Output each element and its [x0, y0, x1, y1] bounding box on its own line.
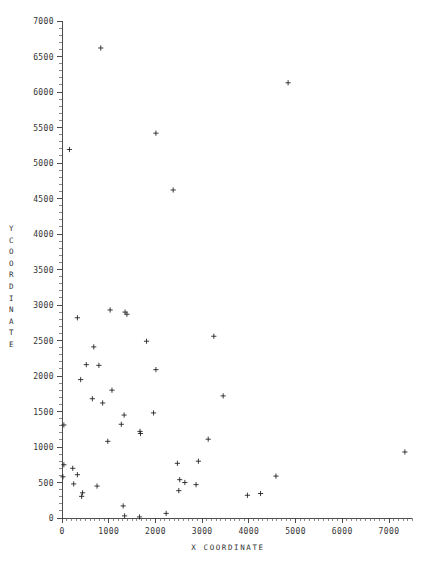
data-point-marker — [402, 449, 407, 454]
data-point-marker — [100, 400, 105, 405]
data-point-marker — [176, 488, 181, 493]
x-tick-label: 0 — [59, 527, 64, 536]
data-point-marker — [91, 344, 96, 349]
data-point-marker — [177, 477, 182, 482]
y-tick-label: 6500 — [33, 53, 54, 62]
x-tick-label: 7000 — [379, 527, 400, 536]
data-point-marker — [206, 437, 211, 442]
data-point-marker — [70, 466, 75, 471]
data-point-marker — [75, 472, 80, 477]
data-point-marker — [90, 396, 95, 401]
data-point-marker — [273, 474, 278, 479]
data-point-marker — [193, 482, 198, 487]
y-tick-label: 1500 — [33, 408, 54, 417]
data-point-marker — [84, 362, 89, 367]
y-axis-title-char: R — [9, 270, 15, 279]
data-point-marker — [122, 412, 127, 417]
y-tick-label: 3000 — [33, 301, 54, 310]
data-point-marker — [108, 307, 113, 312]
data-point-marker — [79, 494, 84, 499]
data-point-marker — [153, 131, 158, 136]
y-axis-title-char: T — [9, 328, 15, 337]
y-axis-title: YCOORDINATE — [9, 224, 15, 349]
data-point-marker — [245, 493, 250, 498]
scatter-plot-figure: 0500100015002000250030003500400045005000… — [0, 0, 434, 571]
data-point-marker — [78, 377, 83, 382]
data-point-marker — [182, 480, 187, 485]
y-axis-title-char: O — [9, 247, 15, 256]
x-tick-label: 4000 — [238, 527, 259, 536]
data-point-marker — [80, 490, 85, 495]
data-point-marker — [211, 334, 216, 339]
chart-canvas: 0500100015002000250030003500400045005000… — [0, 0, 434, 571]
y-axis-title-char: D — [9, 282, 15, 291]
y-axis-title-char: Y — [9, 224, 15, 233]
x-tick-label: 3000 — [192, 527, 213, 536]
data-point-marker — [121, 503, 126, 508]
data-point-marker — [98, 45, 103, 50]
x-axis-title: X COORDINATE — [191, 543, 264, 552]
data-point-marker — [105, 439, 110, 444]
y-tick-label: 2500 — [33, 337, 54, 346]
y-axis-title-char: I — [9, 294, 15, 303]
y-tick-label: 500 — [38, 479, 54, 488]
data-point-marker — [171, 187, 176, 192]
data-point-marker — [60, 474, 65, 479]
data-point-marker — [75, 315, 80, 320]
y-tick-label: 1000 — [33, 443, 54, 452]
data-point-marker — [144, 339, 149, 344]
data-point-marker — [221, 393, 226, 398]
y-tick-label: 4500 — [33, 195, 54, 204]
x-tick-label: 5000 — [285, 527, 306, 536]
data-point-marker — [94, 483, 99, 488]
data-point-marker — [196, 459, 201, 464]
x-tick-label: 6000 — [332, 527, 353, 536]
data-point-marker — [151, 410, 156, 415]
data-point-marker — [109, 388, 114, 393]
x-axis-title-text: X COORDINATE — [191, 543, 264, 552]
y-tick-label: 5000 — [33, 159, 54, 168]
y-tick-label: 6000 — [33, 88, 54, 97]
axes — [62, 21, 412, 518]
y-tick-label: 2000 — [33, 372, 54, 381]
axis-tick-labels: 0500100015002000250030003500400045005000… — [33, 17, 399, 536]
axis-ticks — [57, 21, 412, 523]
data-point-marker — [175, 461, 180, 466]
y-tick-label: 3500 — [33, 266, 54, 275]
data-points — [60, 45, 407, 519]
data-point-marker — [67, 147, 72, 152]
data-point-marker — [119, 422, 124, 427]
y-axis-title-char: O — [9, 259, 15, 268]
data-point-marker — [164, 511, 169, 516]
y-tick-label: 7000 — [33, 17, 54, 26]
data-point-marker — [285, 80, 290, 85]
data-point-marker — [153, 367, 158, 372]
y-tick-label: 4000 — [33, 230, 54, 239]
data-point-marker — [258, 491, 263, 496]
y-tick-label: 5500 — [33, 124, 54, 133]
x-tick-label: 2000 — [145, 527, 166, 536]
y-axis-title-char: N — [9, 305, 15, 314]
y-axis-title-char: A — [9, 317, 15, 326]
y-axis-title-char: C — [9, 236, 15, 245]
data-point-marker — [71, 481, 76, 486]
data-point-marker — [96, 363, 101, 368]
x-tick-label: 1000 — [98, 527, 119, 536]
y-tick-label: 0 — [49, 514, 54, 523]
y-axis-title-char: E — [9, 340, 15, 349]
